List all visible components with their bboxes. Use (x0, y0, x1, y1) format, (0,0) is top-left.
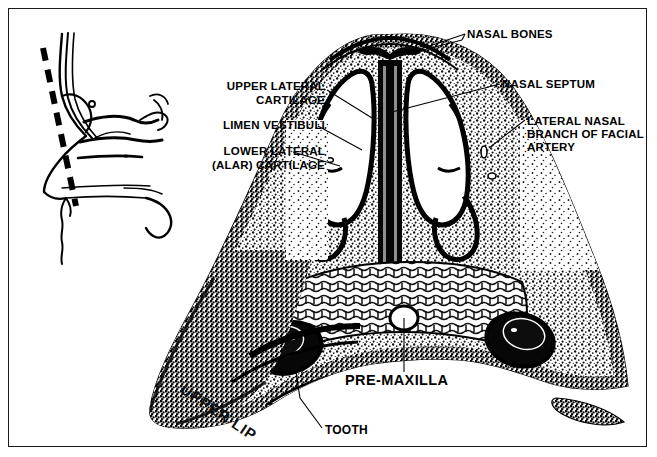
sagittal-inset (44, 33, 171, 264)
label-lateral-nasal-branch-of-facial-artery: LATERAL NASAL BRANCH OF FACIAL ARTERY (527, 115, 644, 154)
label-lower-lateral-alar-cartilage: LOWER LATERAL (ALAR) CARTILAGE (173, 145, 325, 172)
figure-artwork (0, 0, 657, 457)
label-nasal-bones: NASAL BONES (467, 28, 553, 42)
label-upper-lateral-cartilage: UPPER LATERAL CARTILAGE (215, 80, 325, 107)
label-tooth: TOOTH (325, 424, 368, 438)
label-limen-vestibuli: LIMEN VESTIBULI (193, 119, 325, 133)
anatomical-figure: UPPER LATERAL CARTILAGE LIMEN VESTIBULI … (0, 0, 657, 457)
label-pre-maxilla: PRE-MAXILLA (345, 374, 448, 388)
label-nasal-septum: NASAL SEPTUM (502, 78, 595, 92)
